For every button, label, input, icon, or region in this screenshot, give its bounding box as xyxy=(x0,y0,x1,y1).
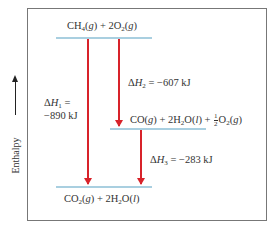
level-top-label: CH4(g) + 2O2(g) xyxy=(67,20,137,33)
level-bottom-label: CO2(g) + 2H2O(l) xyxy=(64,193,139,206)
level-bottom-line xyxy=(56,186,152,188)
arrow-delta-h2 xyxy=(118,39,120,126)
level-top-line xyxy=(56,37,152,39)
axis-line xyxy=(15,80,16,115)
enthalpy-axis: Enthalpy xyxy=(9,80,21,180)
level-middle-label: CO(g) + 2H2O(l) + 12O2(g) xyxy=(130,113,242,128)
delta-h1-label: ΔH1 = xyxy=(44,97,70,110)
level-middle-line xyxy=(110,128,206,130)
arrow-delta-h1 xyxy=(87,39,89,184)
delta-h1-value: −890 kJ xyxy=(44,110,78,121)
axis-label: Enthalpy xyxy=(10,126,21,186)
delta-h2-label: ΔH2 = −607 kJ xyxy=(128,77,191,90)
delta-h3-label: ΔH3 = −283 kJ xyxy=(150,154,213,167)
arrow-delta-h3 xyxy=(140,130,142,184)
